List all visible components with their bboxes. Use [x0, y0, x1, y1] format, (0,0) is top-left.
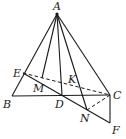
label-B: B [2, 98, 11, 111]
segment-EF [23, 73, 110, 123]
label-C: C [113, 89, 122, 102]
segment-AM [42, 14, 57, 78]
label-N: N [79, 112, 90, 125]
segment-AC [57, 14, 110, 95]
label-F: F [111, 124, 120, 137]
segment-CN [87, 95, 110, 110]
label-M: M [32, 82, 45, 95]
geometry-diagram: A E B M D K C N F [0, 0, 126, 139]
label-A: A [52, 0, 61, 13]
label-K: K [67, 73, 77, 86]
label-D: D [54, 98, 64, 111]
point-labels: A E B M D K C N F [2, 0, 122, 137]
label-E: E [12, 67, 21, 80]
